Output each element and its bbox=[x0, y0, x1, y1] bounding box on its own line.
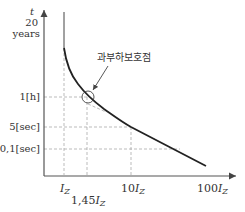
y-tick-0-1sec: 0,1[sec] bbox=[0, 143, 40, 154]
protection-point-circle bbox=[82, 91, 94, 103]
guide-lines bbox=[44, 48, 180, 175]
y-top-20: 20 bbox=[25, 17, 38, 28]
x-tick-10iz: 10IZ bbox=[121, 182, 145, 196]
x-tick-100iz: 100IZ bbox=[197, 182, 228, 196]
characteristic-curve bbox=[64, 48, 206, 166]
y-tick-1h: 1[h] bbox=[19, 91, 40, 102]
x-tick-iz: IZ bbox=[59, 182, 70, 196]
y-axis-title: t bbox=[30, 6, 35, 17]
annotation-overload-protection-point: 과부하보호점 bbox=[97, 51, 151, 63]
time-current-chart: t 20 years 1[h] 5[sec] 0,1[sec] IZ 1,45I… bbox=[0, 0, 245, 212]
x-tick-1-45iz: 1,45IZ bbox=[71, 194, 106, 208]
axes bbox=[44, 10, 236, 176]
annotation-arrow bbox=[93, 66, 108, 90]
y-tick-5sec: 5[sec] bbox=[9, 121, 40, 132]
y-top-years: years bbox=[12, 28, 40, 39]
